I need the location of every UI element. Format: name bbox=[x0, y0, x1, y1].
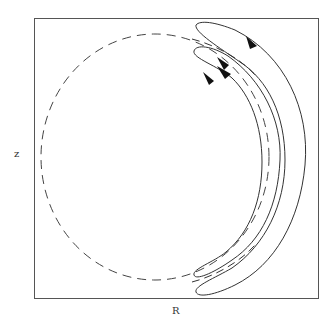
outer-orbit bbox=[196, 22, 306, 295]
arrow-icon bbox=[203, 72, 214, 85]
plot-frame bbox=[35, 19, 319, 299]
r-axis-label: R bbox=[172, 305, 180, 316]
orbit-diagram bbox=[0, 0, 334, 332]
z-axis-label: z bbox=[14, 148, 19, 159]
